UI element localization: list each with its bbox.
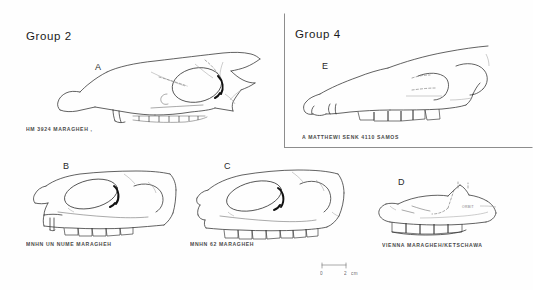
scale-bar-end-label: 2 xyxy=(344,270,347,276)
specimen-caption-e: A MATTHEWI SENK 4110 SAMOS xyxy=(302,133,399,140)
specimen-caption-b: MNHN UN NUME MARAGHEH xyxy=(26,240,112,247)
group-label-group2: Group 2 xyxy=(26,30,72,42)
skull-drawing-e xyxy=(300,42,500,127)
skull-drawing-b xyxy=(28,168,178,240)
specimen-caption-a: HM 3924 MARAGHEH , xyxy=(26,125,93,132)
group-label-group4: Group 4 xyxy=(295,28,341,40)
skull-drawing-d: ORBIT xyxy=(372,178,502,240)
specimen-caption-d: VIENNA MARAGHEH/KETSCHAWA xyxy=(382,241,483,248)
skull-drawing-a xyxy=(55,50,270,125)
scale-bar-unit-label: cm xyxy=(351,270,358,276)
figure-panel: Group 2 Group 4 A xyxy=(0,0,533,290)
orbit-annotation-text: ORBIT xyxy=(462,205,474,209)
scale-bar-start-label: 0 xyxy=(320,270,323,276)
specimen-caption-c: MNHN 62 MARAGHEH xyxy=(190,240,254,247)
skull-drawing-c xyxy=(192,168,347,240)
